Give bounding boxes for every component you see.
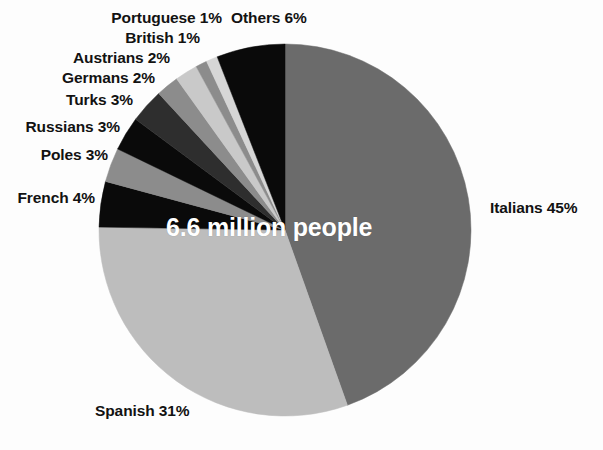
- pie-chart-figure: Italians 45%Spanish 31%French 4%Poles 3%…: [0, 0, 603, 450]
- pie-label-italians: Italians 45%: [490, 200, 578, 216]
- center-total-label: 6.6 million people: [166, 215, 372, 240]
- pie-label-austrians: Austrians 2%: [0, 50, 170, 66]
- pie-label-others: Others 6%: [231, 10, 307, 26]
- pie-label-portuguese: Portuguese 1%: [0, 10, 222, 26]
- pie-label-russians: Russians 3%: [0, 119, 120, 135]
- pie-label-british: British 1%: [0, 30, 200, 46]
- pie-label-turks: Turks 3%: [0, 92, 133, 108]
- pie-label-poles: Poles 3%: [0, 147, 108, 163]
- pie-label-french: French 4%: [0, 190, 95, 206]
- pie-label-germans: Germans 2%: [0, 70, 155, 86]
- pie-label-spanish: Spanish 31%: [95, 403, 190, 419]
